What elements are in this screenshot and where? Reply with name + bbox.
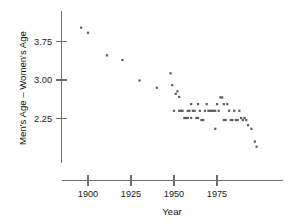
data-point [197, 117, 199, 119]
data-point [194, 110, 196, 112]
x-tick-label: 1975 [207, 189, 227, 199]
y-axis-group: 2.253.003.75 [34, 11, 67, 163]
data-point [173, 110, 175, 112]
data-point [190, 103, 192, 105]
x-tick-label: 1950 [164, 189, 184, 199]
x-tick-labels: 1900192519501975 [78, 189, 227, 199]
data-point [156, 87, 158, 89]
y-tick-label: 3.75 [34, 37, 52, 47]
data-point [178, 96, 180, 98]
y-tick-label: 2.25 [34, 114, 52, 124]
data-point [223, 103, 225, 105]
data-point [197, 103, 199, 105]
data-point [238, 110, 240, 112]
x-tick-label: 1900 [78, 189, 98, 199]
data-point [221, 96, 223, 98]
data-point [242, 119, 244, 121]
x-axis-title: Year [162, 206, 182, 217]
data-point [214, 128, 216, 130]
data-point [139, 79, 141, 81]
x-axis-group: 1900192519501975 [62, 175, 283, 199]
data-point [202, 119, 204, 121]
data-point [226, 103, 228, 105]
plot-canvas: 2.253.003.75 1900192519501975 Year Men's… [0, 0, 295, 224]
y-tick-labels: 2.253.003.75 [34, 37, 52, 124]
data-point [255, 146, 257, 148]
data-point [106, 54, 108, 56]
data-point [245, 119, 247, 121]
data-point [231, 119, 233, 121]
data-point [187, 117, 189, 119]
data-point [182, 110, 184, 112]
data-point [171, 84, 173, 86]
data-point [121, 59, 123, 61]
data-point [87, 32, 89, 34]
data-point [218, 110, 220, 112]
data-point [225, 119, 227, 121]
data-point [214, 110, 216, 112]
scatter-chart-figure: 2.253.003.75 1900192519501975 Year Men's… [0, 0, 295, 224]
x-tick-label: 1925 [121, 189, 141, 199]
data-point [228, 110, 230, 112]
y-tick-label: 3.00 [34, 75, 52, 85]
data-point [216, 103, 218, 105]
data-point [188, 110, 190, 112]
data-point [169, 72, 171, 74]
data-point [233, 110, 235, 112]
data-point [199, 110, 201, 112]
data-point [176, 90, 178, 92]
data-point [250, 128, 252, 130]
data-point [254, 141, 256, 143]
data-points-layer [80, 27, 258, 148]
data-point [243, 117, 245, 119]
data-point [80, 27, 82, 29]
data-point [190, 117, 192, 119]
data-point [237, 119, 239, 121]
y-axis-title: Men's Age – Women's Age [17, 31, 28, 145]
data-point [247, 124, 249, 126]
data-point [204, 110, 206, 112]
data-point [175, 93, 177, 95]
data-point [206, 103, 208, 105]
data-point [240, 117, 242, 119]
